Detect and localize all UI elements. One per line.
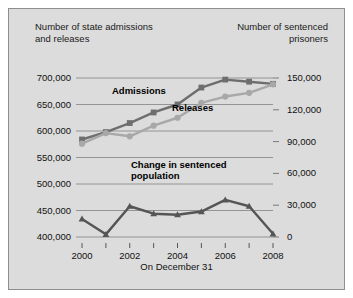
- y-axis-label-left: 450,000: [37, 205, 71, 216]
- data-point: [79, 216, 86, 222]
- series-label-releases: Releases: [172, 102, 213, 113]
- y-axis-label-right: 90,000: [287, 136, 316, 147]
- data-point: [103, 130, 109, 136]
- y-axis-label-left: 600,000: [37, 125, 71, 136]
- x-axis-label: 2008: [253, 250, 293, 261]
- x-axis-label: 2006: [205, 250, 245, 261]
- data-point: [270, 81, 276, 87]
- series-label-admissions: Admissions: [112, 85, 166, 96]
- x-axis-label: 2002: [110, 250, 150, 261]
- data-point: [127, 133, 133, 139]
- y-axis-label-left: 550,000: [37, 152, 71, 163]
- data-point: [246, 79, 252, 85]
- y-axis-label-right: 60,000: [287, 167, 316, 178]
- x-axis-label: 2004: [158, 250, 198, 261]
- data-point: [222, 93, 228, 99]
- y-axis-label-left: 700,000: [37, 72, 71, 83]
- y-axis-label-right: 120,000: [287, 104, 321, 115]
- data-point: [151, 123, 157, 129]
- y-axis-label-right: 0: [287, 231, 292, 242]
- data-point: [127, 120, 133, 126]
- y-axis-label-left: 500,000: [37, 178, 71, 189]
- y-axis-label-right: 150,000: [287, 72, 321, 83]
- data-point: [174, 115, 180, 121]
- data-point: [79, 141, 85, 147]
- chart-plot-area: [9, 9, 346, 291]
- y-axis-label-left: 400,000: [37, 231, 71, 242]
- data-point: [222, 77, 228, 83]
- data-point: [151, 110, 157, 116]
- data-point: [198, 85, 204, 91]
- x-axis-title: On December 31: [9, 261, 344, 272]
- x-axis-label: 2000: [62, 250, 102, 261]
- series-line-1: [82, 84, 273, 143]
- chart-figure: Number of state admissions and releases …: [8, 8, 345, 290]
- series-label-change-in-sentenced-population: Change in sentenced population: [131, 159, 227, 181]
- y-axis-label-left: 650,000: [37, 99, 71, 110]
- y-axis-label-right: 30,000: [287, 199, 316, 210]
- data-point: [246, 90, 252, 96]
